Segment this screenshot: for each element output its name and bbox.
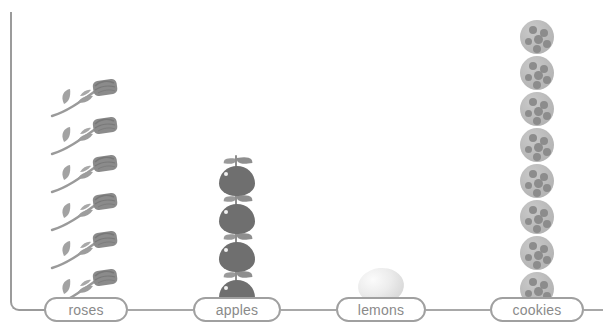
cookie-chip: [534, 71, 543, 80]
cookie-chip: [529, 134, 537, 142]
cookie-icon: [520, 236, 554, 270]
apple-icon: [215, 192, 259, 234]
rose-icon: [50, 78, 122, 118]
category-pill-cookies[interactable]: cookies: [490, 297, 584, 322]
pictograph-symbol: [520, 236, 554, 270]
axis-baseline-segment: [24, 309, 46, 311]
pictograph-symbol: [215, 230, 259, 272]
cookie-chip: [543, 112, 551, 120]
cookie-chip: [525, 290, 532, 297]
pictograph-symbol: [520, 128, 554, 162]
cookie-chip: [533, 189, 541, 197]
category-label-apples: apples: [216, 302, 258, 318]
apple-body: [219, 242, 255, 272]
cookie-chip: [529, 242, 537, 250]
cookie-chip: [533, 153, 541, 161]
apple-body: [219, 204, 255, 234]
cookie-icon: [520, 164, 554, 198]
cookie-chip: [534, 143, 543, 152]
cookie-chip: [534, 251, 543, 260]
category-pill-roses[interactable]: roses: [44, 297, 128, 322]
cookie-chip: [543, 184, 551, 192]
cookie-chip: [534, 107, 543, 116]
cookie-icon: [520, 128, 554, 162]
pictograph-symbol: [50, 154, 122, 194]
cookie-chip: [525, 146, 532, 153]
category-pill-apples[interactable]: apples: [193, 297, 281, 322]
pictograph-symbol: [215, 154, 259, 196]
y-axis-line: [10, 12, 12, 302]
cookie-chip: [525, 110, 532, 117]
category-label-cookies: cookies: [513, 302, 562, 318]
cookie-chip: [529, 278, 537, 286]
baseline-connector: [426, 309, 490, 311]
pictograph-symbol: [520, 92, 554, 126]
cookie-chip: [529, 98, 537, 106]
cookie-chip: [533, 81, 541, 89]
apple-icon: [215, 230, 259, 272]
icon-column-roses: [50, 0, 122, 332]
pictograph-symbol: [520, 200, 554, 234]
category-label-lemons: lemons: [358, 302, 404, 318]
rose-icon: [50, 192, 122, 232]
cookie-chip: [533, 261, 541, 269]
cookie-chip: [543, 40, 551, 48]
icon-column-cookies: [520, 0, 554, 332]
cookie-chip: [543, 148, 551, 156]
cookie-chip: [543, 220, 551, 228]
cookie-icon: [520, 92, 554, 126]
cookie-chip: [543, 256, 551, 264]
icon-column-apples: [215, 0, 259, 332]
cookie-icon: [520, 200, 554, 234]
apple-icon: [215, 154, 259, 196]
icon-column-lemons: [358, 0, 404, 332]
pictograph-symbol: [215, 192, 259, 234]
cookie-chip: [525, 218, 532, 225]
cookie-chip: [525, 254, 532, 261]
pictograph-symbol: [520, 164, 554, 198]
cookie-chip: [525, 38, 532, 45]
cookie-chip: [543, 76, 551, 84]
apple-body: [219, 166, 255, 196]
cookie-icon: [520, 56, 554, 90]
baseline-connector: [281, 309, 336, 311]
category-label-roses: roses: [68, 302, 103, 318]
cookie-chip: [534, 215, 543, 224]
pictograph-symbol: [50, 116, 122, 156]
cookie-chip: [533, 45, 541, 53]
category-pill-lemons[interactable]: lemons: [336, 297, 426, 322]
cookie-chip: [525, 74, 532, 81]
rose-icon: [50, 230, 122, 270]
pictograph-symbol: [520, 56, 554, 90]
pictograph-symbol: [50, 230, 122, 270]
cookie-chip: [534, 287, 543, 296]
cookie-chip: [529, 26, 537, 34]
cookie-chip: [529, 170, 537, 178]
cookie-chip: [529, 62, 537, 70]
rose-icon: [50, 116, 122, 156]
cookie-chip: [525, 182, 532, 189]
apple-leaf-right: [237, 156, 253, 165]
cookie-chip: [534, 35, 543, 44]
cookie-chip: [533, 225, 541, 233]
baseline-connector: [584, 309, 603, 311]
cookie-icon: [520, 20, 554, 54]
cookie-chip: [533, 117, 541, 125]
pictograph-symbol: [520, 20, 554, 54]
pictograph-chart: rosesappleslemonscookies: [0, 0, 603, 332]
cookie-chip: [529, 206, 537, 214]
rose-icon: [50, 154, 122, 194]
cookie-chip: [534, 179, 543, 188]
pictograph-symbol: [50, 78, 122, 118]
pictograph-symbol: [50, 192, 122, 232]
baseline-connector: [128, 309, 193, 311]
